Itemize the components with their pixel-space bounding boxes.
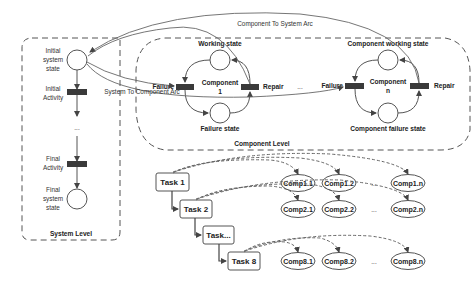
svg-text:Component To System Arc: Component To System Arc	[237, 20, 313, 28]
component-n-repair-transition	[410, 83, 429, 89]
task-2: Task 2	[180, 200, 212, 218]
component-to-system-arc: Component To System Arc	[88, 13, 419, 84]
component-n-failure-state	[378, 103, 398, 123]
component-n-working-label: Component working state	[348, 40, 429, 48]
system-level-title: System Level	[50, 230, 92, 238]
component-ellipsis: ...	[297, 83, 303, 90]
final-system-state: Final system state	[43, 186, 87, 211]
svg-text:Comp8.1: Comp8.1	[283, 258, 313, 266]
component-level-box: Component Level	[136, 38, 470, 150]
initial-system-state: Initial system state	[43, 47, 87, 72]
final-activity-transition: Final Activity	[43, 155, 87, 172]
svg-text:Repair: Repair	[434, 82, 455, 90]
petri-net-diagram: System Level Initial system state Initia…	[0, 0, 476, 286]
svg-text:System To Component Arc: System To Component Arc	[104, 88, 180, 96]
svg-text:Comp1.2: Comp1.2	[324, 180, 354, 188]
svg-text:Comp2.2: Comp2.2	[324, 206, 354, 214]
comp-row-1: Comp1.1 Comp1.2 ... Comp1.n	[281, 175, 425, 192]
svg-text:Component: Component	[370, 78, 407, 86]
svg-text:Comp8.n: Comp8.n	[393, 258, 423, 266]
svg-text:n: n	[386, 87, 390, 94]
svg-text:Final: Final	[46, 186, 60, 193]
component-n-failure-transition	[345, 83, 364, 89]
svg-text:...: ...	[371, 206, 377, 213]
svg-text:Comp1.n: Comp1.n	[393, 180, 423, 188]
component-n-net: Component working state Component failur…	[321, 40, 455, 133]
svg-text:...: ...	[371, 258, 377, 265]
svg-text:Component: Component	[202, 79, 239, 87]
svg-text:Comp2.1: Comp2.1	[283, 206, 313, 214]
svg-text:...: ...	[371, 180, 377, 187]
component-1-failure-label: Failure state	[201, 125, 240, 132]
component-1-working-state	[210, 50, 230, 70]
comp-row-2: Comp2.1 Comp2.2 ... Comp2.n	[281, 201, 425, 218]
svg-text:Repair: Repair	[263, 83, 284, 91]
component-n-working-state	[378, 50, 398, 70]
task-1: Task 1	[156, 173, 189, 191]
component-1-repair-transition	[241, 84, 259, 90]
svg-text:Task 1: Task 1	[160, 178, 185, 187]
svg-text:Task 8: Task 8	[232, 257, 257, 266]
component-1-working-label: Working state	[198, 40, 242, 48]
svg-text:Task...: Task...	[206, 231, 230, 240]
svg-text:Final: Final	[46, 155, 60, 162]
component-1-failure-state	[210, 103, 230, 123]
svg-text:state: state	[46, 204, 60, 211]
svg-text:Initial: Initial	[46, 85, 61, 92]
task-8: Task 8	[228, 252, 260, 270]
svg-text:system: system	[43, 195, 63, 203]
component-level-title: Component Level	[234, 140, 289, 148]
system-ellipsis: ...	[74, 124, 80, 131]
comp-row-8: Comp8.1 Comp8.2 ... Comp8.n	[281, 253, 425, 270]
svg-text:Task 2: Task 2	[184, 205, 209, 214]
svg-text:Initial: Initial	[46, 47, 61, 54]
svg-text:state: state	[46, 65, 60, 72]
svg-text:Activity: Activity	[43, 164, 64, 172]
svg-text:1: 1	[218, 88, 222, 95]
initial-activity-transition: Initial Activity	[43, 85, 87, 102]
task-ellipsis: Task...	[203, 226, 234, 244]
svg-text:Activity: Activity	[43, 94, 64, 102]
component-n-failure-label: Component failure state	[350, 125, 426, 133]
svg-text:Comp2.n: Comp2.n	[393, 206, 423, 214]
svg-text:Comp8.2: Comp8.2	[324, 258, 354, 266]
svg-text:system: system	[43, 56, 63, 64]
